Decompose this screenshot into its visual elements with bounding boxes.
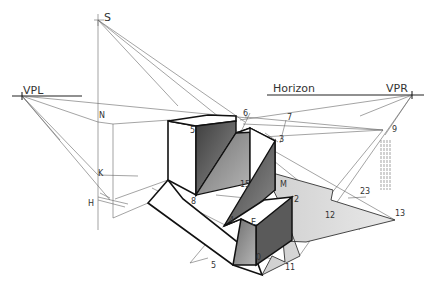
label-point-4: 4 [229,217,234,225]
label-point-23: 23 [360,188,370,196]
label-point-6: 6 [243,110,248,118]
label-point-5-bottom: 5 [211,262,216,270]
label-point-3: 3 [279,136,284,144]
label-point-15: 15 [240,181,250,189]
label-point-11: 11 [285,264,295,272]
label-point-8: 8 [191,198,196,206]
label-point-7: 7 [287,114,292,122]
label-s: S [104,12,111,23]
label-point-12: 12 [325,212,335,220]
label-point-13: 13 [395,210,405,218]
label-point-9: 9 [392,126,397,134]
label-n: N [99,112,105,120]
label-point-e: E [251,219,256,227]
label-point-2: 2 [294,196,299,204]
label-h: H [88,200,94,208]
label-horizon: Horizon [273,83,315,94]
label-point-5-top: 5 [190,127,195,135]
perspective-drawing [0,0,435,284]
label-k: K [98,170,103,178]
label-point-m: M [280,181,287,189]
label-point-0: 0 [256,254,261,262]
label-vpr: VPR [386,83,408,94]
horizon-line [12,95,424,96]
label-vpl: VPL [23,85,43,96]
